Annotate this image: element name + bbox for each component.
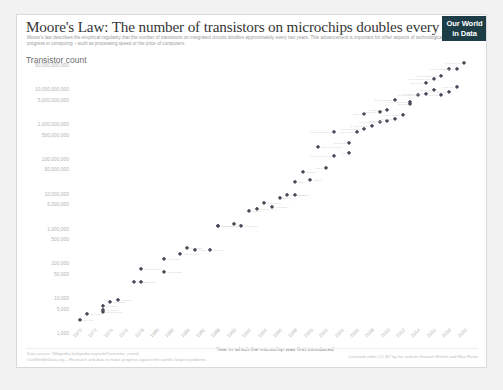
scatter-point-label: MOS 6502	[106, 309, 118, 312]
scatter-point[interactable]	[324, 166, 329, 171]
scatter-point[interactable]	[454, 85, 459, 90]
y-axis-tick-label: 1,000	[57, 331, 69, 336]
scatter-point-label: Zilog Z80	[121, 298, 131, 301]
scatter-point-label: Xeon Cascade Lake	[416, 75, 439, 78]
scatter-point[interactable]	[85, 312, 90, 317]
scatter-point-label: Core 2 Quad	[339, 131, 353, 134]
scatter-point-label: Intel i960	[213, 248, 223, 251]
scatter-point[interactable]	[370, 123, 375, 128]
scatter-point[interactable]	[393, 117, 398, 122]
scatter-point-label: ARM 2	[198, 248, 206, 251]
scatter-point[interactable]	[185, 246, 190, 251]
scatter-point-label: Xeon Platinum 8180	[408, 78, 431, 81]
y-axis-tick-label: 500,000,000	[42, 132, 69, 137]
scatter-point-label: Apple A13	[435, 90, 446, 93]
y-axis-tick-label: 500,000	[51, 237, 69, 242]
y-axis-tick-label: 10,000	[54, 296, 69, 301]
scatter-point-label: Apple A12	[427, 93, 438, 96]
scatter-point-label: Motorola 68020	[183, 252, 200, 255]
scatter-point-label: Pentium Pro	[267, 201, 281, 204]
scatter-point-label: Pentium 4 Prescott	[309, 154, 330, 157]
scatter-point[interactable]	[439, 74, 444, 79]
scatter-point[interactable]	[131, 280, 136, 285]
scatter-point[interactable]	[177, 251, 182, 256]
scatter-point[interactable]	[347, 150, 352, 155]
scatter-point-label: Itanium 2 McKinley	[321, 146, 342, 149]
y-axis-tick-label: 5,000	[57, 306, 69, 311]
scatter-point-label: Itanium	[313, 178, 321, 181]
y-axis-tick-label: 1,000,000,000	[38, 122, 69, 127]
scatter-point[interactable]	[301, 170, 306, 175]
scatter-point-label: Alpha 21064	[244, 224, 258, 227]
scatter-point[interactable]	[247, 209, 252, 214]
scatter-point-label: Xeon Broadwell-E5	[401, 93, 422, 96]
y-axis-tick-label: 5,000,000	[47, 202, 69, 207]
scatter-point[interactable]	[308, 178, 313, 183]
scatter-point[interactable]	[262, 201, 267, 206]
footer-org-line: OurWorldInData.org – Research and data t…	[27, 357, 327, 363]
scatter-point[interactable]	[462, 61, 467, 66]
scatter-point-label: Intel 8088	[144, 281, 155, 284]
scatter-point-label: Westmere-EX	[369, 108, 385, 111]
scatter-point-label: Pentium II	[283, 197, 294, 200]
y-axis-tick-label: 100,000,000	[42, 156, 69, 161]
scatter-point-label: Cell	[342, 151, 346, 154]
owid-logo-line1: Our World	[442, 19, 487, 29]
owid-logo-line2: in Data	[442, 29, 487, 39]
footer-license: Licensed under CC-BY by the authors Hann…	[329, 354, 479, 359]
scatter-point-label: Ivy Bridge	[381, 118, 392, 121]
scatter-point-label: Intel 8008	[90, 313, 101, 316]
scatter-point-label: Apple M1	[443, 67, 454, 70]
scatter-point[interactable]	[447, 90, 452, 95]
y-axis-tick-label: 10,000,000,000	[35, 87, 69, 92]
scatter-point[interactable]	[385, 107, 390, 112]
y-axis-tick-labels: 50,000,000,00010,000,000,0005,000,000,00…	[17, 65, 69, 333]
scatter-point-label: Core 2 Duo	[333, 141, 346, 144]
scatter-point[interactable]	[408, 102, 413, 107]
scatter-point-label: WDC 65C02	[167, 271, 181, 274]
scatter-point[interactable]	[454, 66, 459, 71]
scatter-point[interactable]	[431, 77, 436, 82]
chart-subtitle: Moore's law describes the empirical regu…	[27, 35, 452, 48]
scatter-point[interactable]	[108, 299, 113, 304]
scatter-point[interactable]	[331, 130, 336, 135]
scatter-point[interactable]	[354, 130, 359, 135]
scatter-point-label: Athlon	[298, 181, 305, 184]
scatter-point[interactable]	[216, 224, 221, 229]
footer-divider	[26, 348, 478, 349]
chart-card: Moore's Law: The number of transistors o…	[16, 14, 487, 368]
page-title: Moore's Law: The number of transistors o…	[26, 18, 456, 35]
scatter-point[interactable]	[362, 127, 367, 132]
scatter-point-label: Pentium III	[298, 193, 310, 196]
scatter-point[interactable]	[77, 318, 82, 323]
y-axis-tick-label: 1,000,000	[47, 226, 69, 231]
scatter-point-label: Barton	[315, 167, 322, 170]
scatter-point[interactable]	[316, 145, 321, 150]
scatter-point[interactable]	[162, 270, 167, 275]
scatter-point-label: Six-core Opteron	[350, 124, 369, 127]
scatter-point-label: Intel 8080	[106, 304, 117, 307]
scatter-point-label: Pentium 4	[306, 171, 317, 174]
scatter-point-label: Apple A14	[442, 85, 453, 88]
scatter-point-label: Alpha 21164	[275, 205, 289, 208]
scatter-point-label: IBM z13	[398, 102, 407, 105]
scatter-point[interactable]	[347, 141, 352, 146]
scatter-point-label: Xeon Ivy Bridge	[382, 113, 400, 116]
scatter-point[interactable]	[208, 247, 213, 252]
scatter-point-label: SPARC M7	[410, 81, 423, 84]
scatter-point-label: Tukwila	[353, 113, 361, 116]
scatter-point[interactable]	[139, 267, 144, 272]
scatter-point[interactable]	[162, 257, 167, 262]
scatter-point[interactable]	[331, 153, 336, 158]
scatter-point[interactable]	[277, 196, 282, 201]
scatter-point-label: Intel 4004	[83, 319, 94, 322]
scatter-point[interactable]	[424, 81, 429, 86]
owid-logo[interactable]: Our World in Data	[442, 16, 487, 41]
scatter-point[interactable]	[293, 180, 298, 185]
scatter-point-label: Motorola 68000	[144, 268, 161, 271]
scatter-point[interactable]	[401, 112, 406, 117]
footer-source: Data source: Wikipedia (wikipedia.org/wi…	[27, 351, 327, 362]
scatter-point[interactable]	[439, 93, 444, 98]
scatter-point-label: Itanium 2 Madison	[310, 131, 330, 134]
y-axis-tick-label: 50,000	[54, 271, 69, 276]
